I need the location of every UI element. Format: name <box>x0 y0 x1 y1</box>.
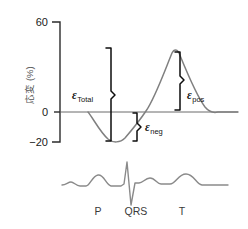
strain-ecg-figure: 60 0 −20 応変 (%) εTotal εneg εpos P QRS T <box>0 0 248 229</box>
epsilon-neg-label: εneg <box>145 121 163 136</box>
ecg-label-qrs: QRS <box>125 205 148 217</box>
y-axis-title: 応変 (%) <box>24 66 35 103</box>
ecg-label-p: P <box>94 205 101 217</box>
figure-canvas: 60 0 −20 応変 (%) εTotal εneg εpos P QRS T <box>0 0 248 229</box>
epsilon-total-subscript: Total <box>77 95 93 104</box>
y-tick-label-60: 60 <box>36 16 48 28</box>
ecg-label-t: T <box>179 205 186 217</box>
ecg-trace-path <box>62 162 228 205</box>
epsilon-total-label: εTotal <box>72 89 93 104</box>
y-tick-label-minus20: −20 <box>29 136 48 148</box>
epsilon-neg-subscript: neg <box>150 127 163 136</box>
y-axis-group <box>52 22 60 142</box>
epsilon-pos-subscript: pos <box>192 95 204 104</box>
y-axis-spine <box>52 22 60 142</box>
y-tick-label-0: 0 <box>42 106 48 118</box>
brace-epsilon-total <box>106 48 115 141</box>
